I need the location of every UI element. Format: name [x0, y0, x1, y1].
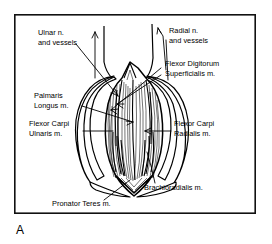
label-flexor-digitorum-superficialis-line1: Flexor Digitorum — [165, 59, 219, 68]
label-brachioradialis: Brachioradialis m. — [144, 183, 203, 192]
figure-caption: A — [16, 223, 24, 237]
label-palmaris-longus-line1: Palmaris — [34, 91, 63, 100]
label-flexor-carpi-radialis-line2: Radialis m. — [174, 129, 211, 138]
label-flexor-digitorum-superficialis-line2: Superficialis m. — [165, 69, 215, 78]
label-pronator-teres: Pronator Teres m. — [52, 199, 111, 208]
label-flexor-carpi-radialis-line1: Flexor Carpi — [174, 119, 215, 128]
anatomy-illustration-svg: Ulnar n. and vessels Radial n. and vesse… — [0, 0, 272, 244]
label-flexor-carpi-ulnaris-line2: Ulnaris m. — [29, 129, 62, 138]
anatomy-figure: Ulnar n. and vessels Radial n. and vesse… — [0, 0, 272, 244]
label-ulnar-nerve-vessels-line1: Ulnar n. — [38, 28, 64, 37]
label-flexor-carpi-ulnaris-line1: Flexor Carpi — [29, 119, 70, 128]
label-radial-nerve-vessels-line1: Radial n. — [169, 26, 198, 35]
label-ulnar-nerve-vessels-line2: and vessels — [38, 38, 77, 47]
label-radial-nerve-vessels-line2: and vessels — [169, 36, 208, 45]
label-palmaris-longus-line2: Longus m. — [34, 101, 69, 110]
